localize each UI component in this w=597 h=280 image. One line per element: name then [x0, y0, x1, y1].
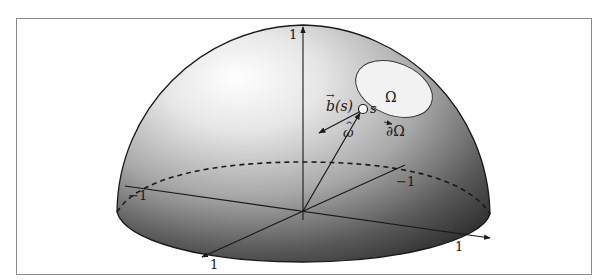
hemisphere-diagram: 1 −1 −1 1 1 Ω ∂Ω s b(s) → ω ^: [0, 0, 597, 280]
point-s: [359, 105, 368, 114]
boundary-label: ∂Ω: [386, 123, 405, 139]
omega-label: Ω: [385, 89, 397, 105]
b-vector-arrow-accent: →: [326, 90, 335, 101]
omega-hat-accent: ^: [345, 119, 353, 130]
point-s-label: s: [370, 101, 377, 116]
right-tick-label: 1: [455, 239, 463, 254]
vertical-tick-label: 1: [289, 27, 297, 42]
front-tick-label: 1: [210, 257, 218, 272]
left-tick-label: −1: [128, 188, 147, 203]
back-tick-label: −1: [396, 174, 415, 189]
